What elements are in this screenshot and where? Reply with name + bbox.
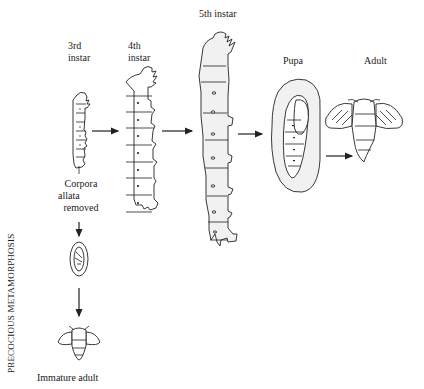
larva-5th-instar-drawing bbox=[199, 32, 237, 246]
precocious-pupa-drawing bbox=[70, 242, 88, 276]
immature-adult-drawing bbox=[58, 326, 100, 360]
larva-3rd-instar-drawing bbox=[73, 92, 90, 174]
diagram-canvas bbox=[0, 0, 424, 389]
larva-4th-instar-drawing bbox=[126, 67, 158, 213]
pupa-drawing bbox=[272, 79, 321, 192]
adult-moth-drawing bbox=[326, 99, 403, 162]
